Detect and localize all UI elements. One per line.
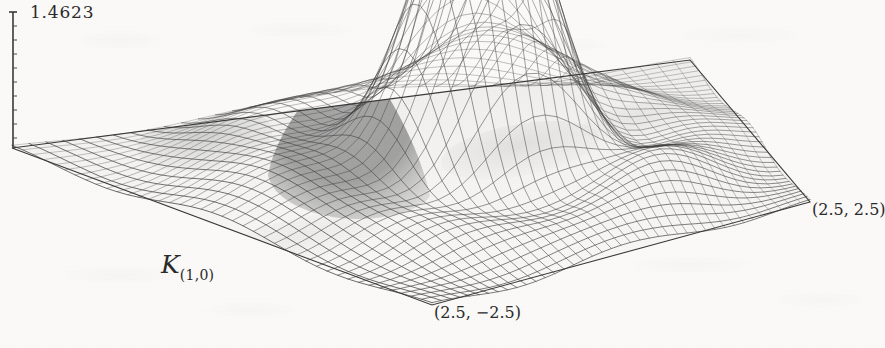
surface-function-label: K(1,0) <box>161 250 214 283</box>
corner-label-front: (2.5, −2.5) <box>434 303 521 322</box>
z-axis-max-label: 1.4623 <box>30 2 94 22</box>
corner-label-right: (2.5, 2.5) <box>812 200 885 219</box>
figure-container: 1.4623 K(1,0) (2.5, 2.5) (2.5, −2.5) <box>0 0 885 348</box>
surface-function-subscript: (1,0) <box>180 267 215 283</box>
surface-plot-svg <box>0 0 885 348</box>
z-axis <box>9 12 17 148</box>
surface-function-symbol: K <box>161 250 180 279</box>
